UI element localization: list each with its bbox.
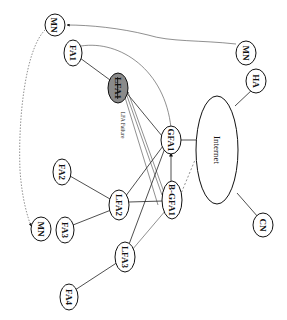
edge-ha-internet: [235, 89, 253, 106]
svg-text:HA: HA: [251, 74, 261, 88]
svg-text:Internet: Internet: [212, 136, 222, 164]
node-mn-bottom: MN: [31, 217, 51, 241]
svg-text:FA3: FA3: [60, 222, 70, 238]
edge-bgfa1-lfa1-b: [128, 92, 165, 195]
edge-gfa1-lfa1: [125, 91, 162, 136]
edge-fa4-lfa3: [75, 262, 118, 290]
node-fa4: FA4: [60, 284, 78, 310]
svg-text:GFA1: GFA1: [166, 129, 176, 152]
node-lfa3: LFA3: [115, 242, 135, 272]
lfa-failure-caption: LFA Failure: [120, 112, 126, 139]
edge-mn-right-to-mn-top: [67, 25, 236, 44]
edge-lfa3-bgfa1: [132, 210, 166, 250]
svg-text:B-GFA1: B-GFA1: [167, 184, 177, 216]
svg-text:LFA2: LFA2: [114, 194, 124, 216]
edge-lfa2-gfa1: [125, 146, 163, 197]
svg-text:FA2: FA2: [57, 164, 67, 180]
node-ha: HA: [246, 69, 266, 93]
svg-text:MN: MN: [241, 46, 251, 61]
network-diagram: MN FA1 LFA1 LFA Failure GFA1 Internet MN…: [0, 0, 287, 320]
edge-lfa2-bgfa1: [129, 201, 163, 202]
node-b-gfa1: B-GFA1: [162, 181, 182, 219]
svg-text:CN: CN: [258, 219, 268, 232]
node-fa1: FA1: [64, 40, 82, 66]
edge-fa1-lfa1: [80, 58, 110, 80]
edge-bgfa1-internet: [180, 160, 195, 196]
node-gfa1: GFA1: [161, 126, 181, 154]
svg-text:FA4: FA4: [64, 289, 74, 305]
node-lfa1-failed: LFA1: [108, 73, 128, 103]
node-mn-right: MN: [236, 41, 256, 65]
edge-fa3-lfa2: [73, 210, 111, 225]
node-fa3: FA3: [56, 217, 74, 243]
node-lfa2: LFA2: [109, 190, 129, 220]
svg-text:FA1: FA1: [68, 45, 78, 61]
node-internet: Internet: [196, 96, 238, 204]
svg-text:LFA3: LFA3: [120, 246, 130, 268]
edge-mn-top-to-mn-bottom: [20, 30, 45, 226]
node-mn-top: MN: [45, 14, 65, 36]
svg-text:MN: MN: [49, 18, 59, 33]
edge-cn-internet: [237, 193, 258, 217]
svg-text:MN: MN: [36, 222, 46, 237]
svg-text:LFA1: LFA1: [113, 77, 123, 99]
node-fa2: FA2: [53, 159, 71, 185]
node-cn: CN: [253, 213, 273, 237]
edge-bgfa1-lfa1-a: [126, 93, 162, 195]
edge-lfa3-gfa1: [128, 148, 165, 247]
edge-fa2-lfa2: [70, 176, 110, 199]
